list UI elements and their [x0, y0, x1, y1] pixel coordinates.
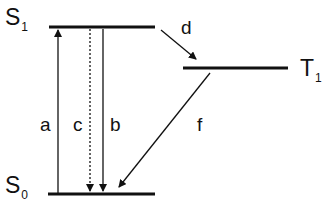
state-s1-label: S1 [5, 6, 28, 29]
state-s0-subscript: 0 [21, 188, 28, 202]
transition-a-label: a [40, 115, 51, 134]
transition-c-label: c [73, 115, 83, 134]
transition-f-label: f [197, 115, 202, 134]
state-t1-label: T1 [300, 57, 322, 80]
state-s1-letter: S [5, 4, 20, 30]
state-t1-subscript: 1 [315, 71, 322, 85]
diagram-canvas [0, 0, 334, 207]
transition-b-label: b [110, 115, 121, 134]
state-t1-letter: T [300, 55, 314, 81]
state-s0-label: S0 [5, 174, 28, 197]
state-s0-letter: S [5, 172, 20, 198]
state-s1-subscript: 1 [21, 20, 28, 34]
transition-d-label: d [181, 18, 192, 37]
